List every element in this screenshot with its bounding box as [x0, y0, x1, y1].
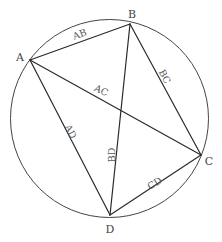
vertex-label-d: D: [106, 223, 115, 236]
edge-label-cd: CD: [145, 174, 164, 191]
chord-bd: [110, 24, 130, 215]
chords-group: [30, 24, 201, 215]
edge-label-bd: BD: [106, 147, 117, 162]
edge-label-bc: BC: [157, 68, 173, 86]
circumscribed-circle: [11, 20, 209, 218]
vertex-label-b: B: [128, 8, 136, 21]
cyclic-quadrilateral-diagram: ABACBCADBDCD ABCD: [0, 0, 222, 242]
vertex-label-a: A: [15, 51, 25, 64]
vertex-label-c: C: [205, 155, 213, 168]
edge-label-ad: AD: [62, 122, 79, 141]
